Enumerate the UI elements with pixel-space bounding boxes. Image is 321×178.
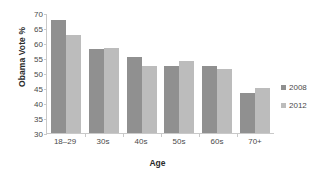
x-tick-label-70+: 70+ xyxy=(236,137,274,146)
bar-2012-70+[interactable] xyxy=(255,88,270,133)
y-tick-label: 60 xyxy=(34,40,43,49)
x-axis-tick-labels: 18–2930s40s50s60s70+ xyxy=(46,137,274,146)
bar-2012-40s[interactable] xyxy=(142,66,157,134)
y-tick-label: 50 xyxy=(34,70,43,79)
y-tick-label: 40 xyxy=(34,100,43,109)
bar-2012-50s[interactable] xyxy=(179,61,194,133)
y-axis-title: Obama Vote % xyxy=(17,2,27,112)
bar-groups xyxy=(47,14,274,133)
bar-2008-30s[interactable] xyxy=(89,49,104,133)
bar-2008-70+[interactable] xyxy=(240,93,255,134)
legend-label: 2008 xyxy=(289,83,307,92)
y-tick-mark xyxy=(44,44,47,45)
x-tick-label-60s: 60s xyxy=(198,137,236,146)
y-tick-mark xyxy=(44,89,47,90)
bar-2008-50s[interactable] xyxy=(164,66,179,134)
y-tick-label: 65 xyxy=(34,25,43,34)
bar-group xyxy=(160,14,198,133)
y-tick-mark xyxy=(44,74,47,75)
x-axis-title: Age xyxy=(40,158,275,168)
chart-legend: 20082012 xyxy=(281,83,307,110)
bar-group xyxy=(85,14,123,133)
legend-label: 2012 xyxy=(289,101,307,110)
y-tick-label: 70 xyxy=(34,10,43,19)
legend-swatch-icon xyxy=(281,85,286,90)
y-tick-mark xyxy=(44,104,47,105)
x-tick-label-18–29: 18–29 xyxy=(46,137,84,146)
bar-2008-60s[interactable] xyxy=(202,66,217,134)
bar-group xyxy=(198,14,236,133)
x-tick-label-40s: 40s xyxy=(122,137,160,146)
plot-area: 303540455055606570 xyxy=(46,14,274,134)
legend-swatch-icon xyxy=(281,103,286,108)
y-tick-mark xyxy=(44,59,47,60)
chart-figure: Obama Vote % 303540455055606570 18–2930s… xyxy=(0,0,321,178)
x-tick-label-50s: 50s xyxy=(160,137,198,146)
bar-2008-40s[interactable] xyxy=(127,57,142,133)
y-tick-label: 45 xyxy=(34,85,43,94)
y-tick-mark xyxy=(44,119,47,120)
y-tick-mark xyxy=(44,134,47,135)
x-tick-label-30s: 30s xyxy=(84,137,122,146)
bar-2008-18–29[interactable] xyxy=(51,20,66,133)
legend-item-2008[interactable]: 2008 xyxy=(281,83,307,92)
bar-2012-60s[interactable] xyxy=(217,69,232,133)
y-tick-label: 30 xyxy=(34,130,43,139)
y-tick-mark xyxy=(44,14,47,15)
bar-group xyxy=(123,14,161,133)
y-tick-label: 55 xyxy=(34,55,43,64)
y-tick-mark xyxy=(44,29,47,30)
bar-group xyxy=(47,14,85,133)
bar-2012-18–29[interactable] xyxy=(66,35,81,133)
bar-group xyxy=(236,14,274,133)
bar-2012-30s[interactable] xyxy=(104,48,119,133)
legend-item-2012[interactable]: 2012 xyxy=(281,101,307,110)
y-tick-label: 35 xyxy=(34,115,43,124)
